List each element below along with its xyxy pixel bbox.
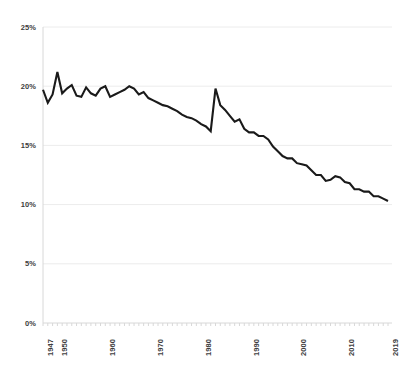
gridlines-group (43, 27, 392, 264)
chart-plot-svg (0, 0, 406, 370)
union-membership-line-chart: 0%5%10%15%20%25% 19471950196019701980199… (0, 0, 406, 370)
axis-lines-group (43, 27, 392, 323)
series-line-0 (43, 72, 388, 201)
data-series-group (43, 72, 388, 201)
